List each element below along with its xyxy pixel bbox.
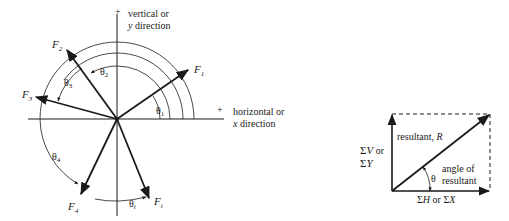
horizontal-sum-label: ΣH or ΣX	[417, 194, 456, 205]
resultant-angle-arc	[423, 167, 430, 191]
force-vector-f4	[81, 119, 117, 194]
label-theta3: θ3	[64, 77, 73, 90]
y-axis-plus: +	[115, 6, 121, 17]
label-f1: F1	[193, 63, 204, 78]
vertical-sum-label-line2: ΣY	[360, 157, 374, 169]
label-theta4: θ4	[52, 151, 61, 164]
angle-theta-label: θ	[431, 173, 436, 184]
force-components-diagram: + vertical or y direction + horizontal o…	[21, 6, 285, 216]
label-f3: F3	[21, 88, 33, 103]
label-f2: F2	[51, 38, 63, 53]
origin-point	[115, 117, 119, 121]
resultant-diagram: resultant, R ΣV or ΣY θ angle of resulta…	[360, 114, 490, 205]
x-axis-plus: +	[217, 104, 223, 115]
arc-f2-inner	[117, 53, 183, 119]
resultant-label: resultant, R	[397, 131, 443, 142]
force-vector-f1	[117, 70, 188, 119]
angle-label-line1: angle of	[442, 163, 475, 174]
label-theta1: θ1	[156, 105, 165, 118]
x-axis-label-line1: horizontal or	[233, 106, 285, 117]
force-vector-f2	[67, 50, 117, 119]
label-f4: F4	[67, 200, 79, 215]
y-axis-label-line2: y direction	[127, 20, 171, 31]
vertical-sum-label-line1: ΣV or	[360, 144, 385, 156]
label-theta-i: θi	[129, 198, 136, 211]
force-diagram-canvas: + vertical or y direction + horizontal o…	[0, 0, 509, 221]
arc-theta-i	[95, 197, 146, 201]
x-axis-label-line2: x direction	[232, 118, 276, 129]
label-fi: Fi	[153, 195, 163, 210]
label-theta2: θ2	[100, 66, 109, 79]
force-vector-fi	[117, 119, 149, 198]
force-vector-f3	[36, 97, 117, 119]
y-axis-label-line1: vertical or	[128, 8, 169, 19]
arc-theta4	[40, 119, 78, 184]
angle-label-line2: resultant	[442, 175, 477, 186]
